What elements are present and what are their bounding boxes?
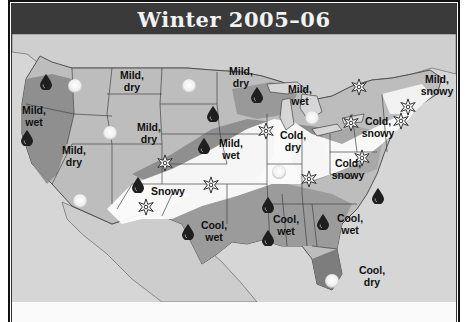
sun-icon xyxy=(305,111,319,125)
region-label: Mild,snowy xyxy=(421,73,454,97)
region-label: Mild,wet xyxy=(219,137,243,161)
sun-icon xyxy=(182,79,196,93)
sun-icon xyxy=(325,274,339,288)
region-label: Mild,wet xyxy=(288,83,312,107)
sun-icon xyxy=(272,165,286,179)
region-label: Snowy xyxy=(151,185,185,197)
bottom-strip xyxy=(12,302,456,322)
weather-map: Mild,wet Mild,dry Mild,dry Mild,dry Mild… xyxy=(12,34,456,302)
title-bar: Winter 2005–06 xyxy=(12,4,456,34)
sun-icon xyxy=(73,194,87,208)
region-label: Cold,snowy xyxy=(332,157,365,181)
map-title: Winter 2005–06 xyxy=(137,7,330,32)
region-label: Mild,wet xyxy=(22,104,46,128)
sun-icon xyxy=(68,79,82,93)
region-label: Cold,snowy xyxy=(362,115,395,139)
sun-icon xyxy=(103,126,117,140)
